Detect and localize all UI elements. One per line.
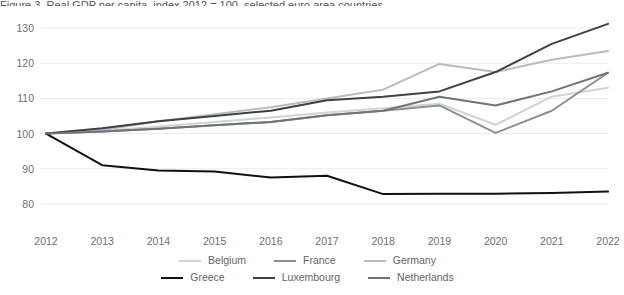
x-tick-label: 2015 <box>192 236 238 246</box>
legend-swatch-belgium <box>179 260 201 262</box>
legend-swatch-netherlands <box>368 277 390 279</box>
legend-row-1: Belgium France Germany <box>0 252 615 269</box>
x-tick-label: 2021 <box>529 236 575 246</box>
legend-swatch-greece <box>161 277 183 279</box>
legend-label-germany: Germany <box>393 255 436 266</box>
legend-item-france[interactable]: France <box>274 255 336 266</box>
legend-label-belgium: Belgium <box>208 255 246 266</box>
legend-swatch-luxembourg <box>253 277 275 279</box>
series-line-greece <box>46 134 608 194</box>
x-tick-label: 2022 <box>585 236 624 246</box>
y-tick-label: 120 <box>0 58 34 68</box>
legend-label-greece: Greece <box>190 272 224 283</box>
legend-item-greece[interactable]: Greece <box>161 272 224 283</box>
legend-swatch-germany <box>364 260 386 262</box>
series-line-belgium <box>46 88 608 134</box>
x-tick-label: 2012 <box>23 236 69 246</box>
x-tick-label: 2014 <box>135 236 181 246</box>
line-chart-svg <box>0 6 615 228</box>
x-tick-label: 2013 <box>79 236 125 246</box>
x-tick-label: 2018 <box>360 236 406 246</box>
legend-swatch-france <box>274 260 296 262</box>
legend-label-luxembourg: Luxembourg <box>282 272 340 283</box>
plot-area <box>0 6 615 228</box>
y-tick-label: 100 <box>0 129 34 139</box>
y-tick-label: 110 <box>0 93 34 103</box>
y-tick-label: 130 <box>0 23 34 33</box>
x-tick-label: 2017 <box>304 236 350 246</box>
x-tick-label: 2019 <box>416 236 462 246</box>
y-tick-label: 90 <box>0 164 34 174</box>
legend-item-luxembourg[interactable]: Luxembourg <box>253 272 340 283</box>
x-tick-label: 2016 <box>248 236 294 246</box>
legend-label-netherlands: Netherlands <box>397 272 454 283</box>
x-tick-label: 2020 <box>473 236 519 246</box>
chart-legend: Belgium France Germany Greece Luxembourg <box>0 252 615 286</box>
legend-row-2: Greece Luxembourg Netherlands <box>0 269 615 286</box>
legend-item-netherlands[interactable]: Netherlands <box>368 272 454 283</box>
y-tick-label: 80 <box>0 199 34 209</box>
legend-label-france: France <box>303 255 336 266</box>
legend-item-germany[interactable]: Germany <box>364 255 436 266</box>
series-line-luxembourg <box>46 24 608 134</box>
legend-item-belgium[interactable]: Belgium <box>179 255 246 266</box>
